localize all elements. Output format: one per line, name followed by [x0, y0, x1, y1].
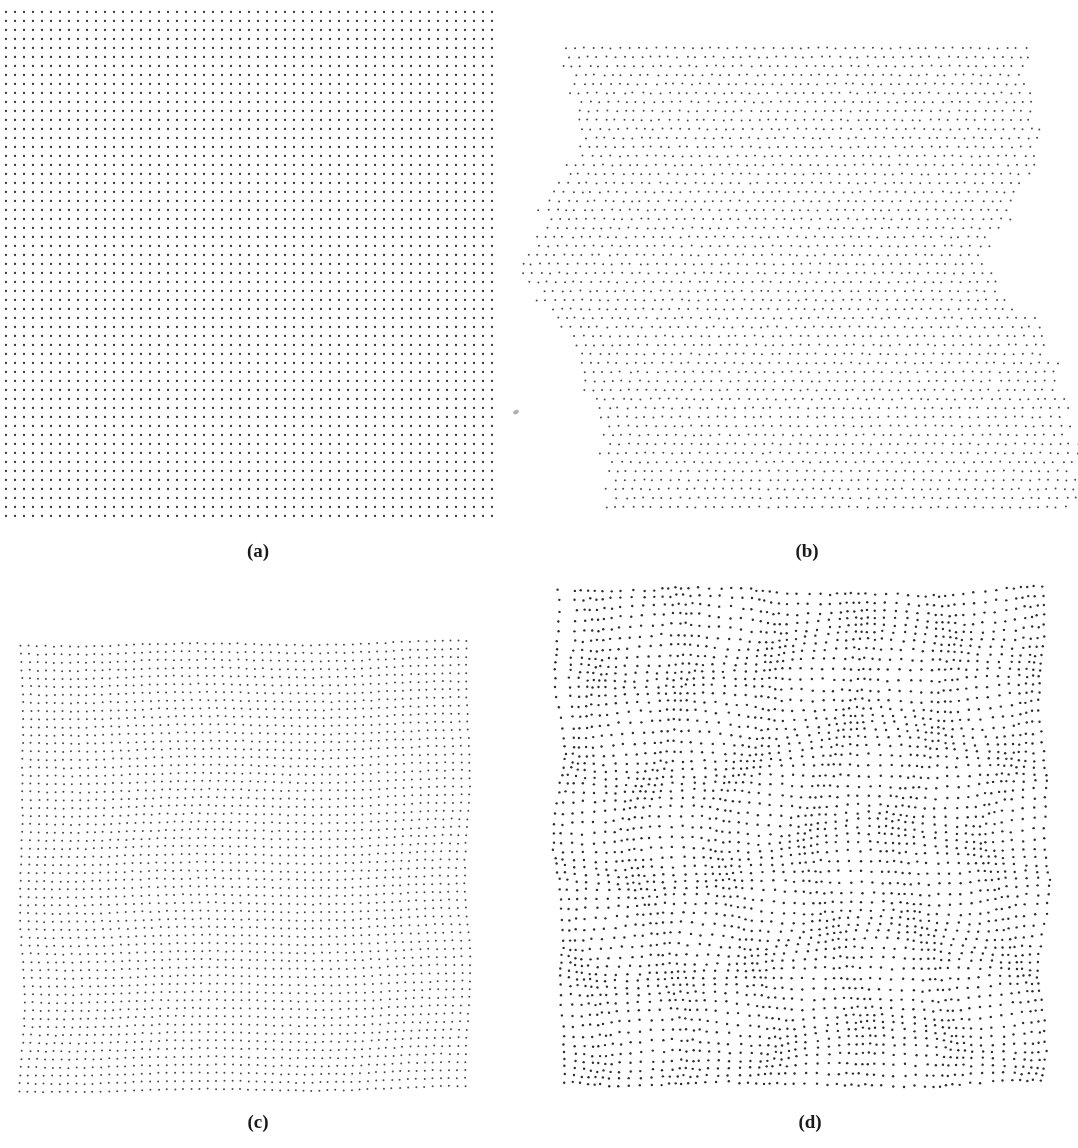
panel-d-clustered-grid: [0, 0, 1078, 1148]
caption-d: (d): [798, 1111, 821, 1133]
dot-pattern-d: [0, 0, 1078, 1148]
